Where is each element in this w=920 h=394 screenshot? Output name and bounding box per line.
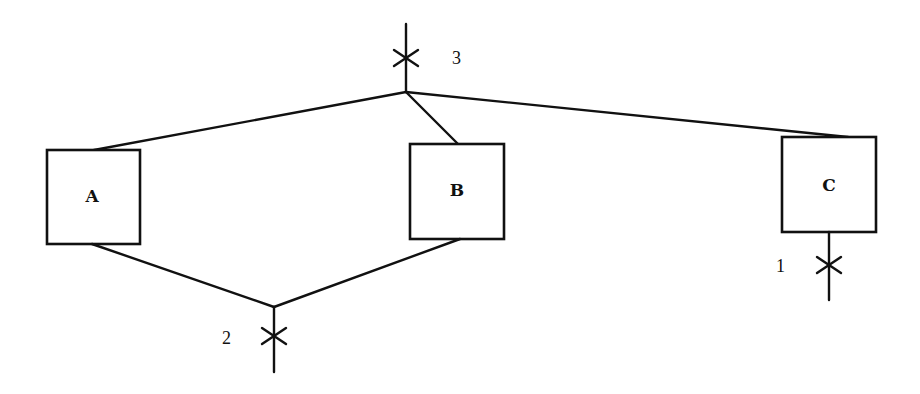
edge-top-to-b [406, 92, 458, 144]
edge-top-to-a [94, 92, 406, 150]
edge-a-to-bottom [92, 244, 274, 307]
node-b-label: B [450, 180, 464, 200]
cut-label-2: 2 [222, 328, 231, 348]
edge-top-to-c [406, 92, 848, 137]
node-c-label: C [822, 175, 836, 195]
node-a[interactable]: A [47, 150, 140, 244]
cut-label-3: 3 [452, 48, 461, 68]
node-c[interactable]: C [782, 137, 876, 232]
edge-b-to-bottom [274, 239, 460, 307]
cut-label-1: 1 [776, 256, 785, 276]
reliability-diagram: 3 A B C 1 2 [0, 0, 920, 394]
node-b[interactable]: B [410, 144, 504, 239]
node-a-label: A [84, 186, 99, 206]
